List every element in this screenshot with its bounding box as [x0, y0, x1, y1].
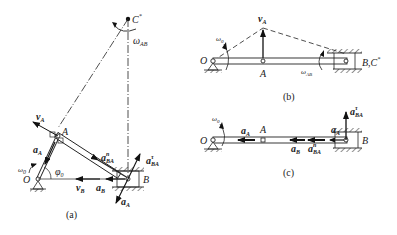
dashed-O-vA	[213, 28, 263, 61]
label-vB: vB	[76, 182, 84, 194]
panel-c: O ω0 aA A aB aBAn aA aBAτ B (c)	[200, 105, 368, 179]
label-omega0: ω0	[18, 166, 26, 175]
label-omega-AB: ωAB	[133, 35, 148, 47]
label-aB: aB	[96, 182, 105, 194]
mechanism-diagram: C* ωAB A vA aA O	[0, 0, 397, 235]
ground-support-O	[33, 181, 43, 189]
label-aBA-t: aBAτ	[146, 154, 159, 167]
label-vA: vA	[36, 111, 44, 123]
label-O-c: O	[200, 135, 207, 146]
rod-OB-b	[213, 58, 347, 64]
caption-c: (c)	[283, 167, 294, 179]
panel-a: C* ωAB A vA aA O	[18, 13, 159, 221]
label-aA-c: aA	[241, 125, 250, 137]
panel-b: vA O A ω0 ωAB B,C* (b)	[200, 13, 380, 103]
joint-B-b	[344, 59, 348, 63]
joint-A-b	[261, 59, 265, 63]
label-O-b: O	[200, 55, 207, 66]
label-C: C*	[132, 13, 142, 25]
aA-vector	[45, 142, 55, 164]
rod-OB-c	[213, 137, 347, 143]
caption-a: (a)	[66, 209, 77, 221]
label-omega0-b: ω0	[216, 35, 224, 44]
label-aBA-t-c: aBAτ	[350, 105, 363, 118]
omega0-arc	[29, 164, 36, 173]
label-A-b: A	[259, 68, 267, 79]
caption-b: (b)	[283, 91, 295, 103]
label-omega-AB-b: ωAB	[301, 68, 312, 77]
label-O: O	[23, 174, 30, 185]
ground-hatch-O	[30, 189, 46, 192]
label-aBA-n: aBAn	[101, 151, 114, 164]
label-aB-c: aB	[291, 143, 300, 155]
line-CA	[58, 19, 128, 128]
label-aA: aA	[33, 144, 42, 156]
joint-A-c	[261, 138, 265, 142]
phi0-arc	[44, 167, 51, 179]
label-aBA-n-c: aBAn	[308, 142, 321, 155]
ground-hatch-O-c	[204, 149, 222, 152]
aBA-t-vector	[128, 154, 140, 179]
vA-vector	[33, 122, 58, 136]
label-aA-at-B: aA	[121, 196, 130, 208]
ground-hatch-O-b	[204, 70, 222, 73]
label-A: A	[61, 126, 69, 137]
omega-AB-arc	[114, 25, 136, 31]
label-A-c: A	[259, 124, 267, 135]
label-BC-b: B,C*	[362, 56, 380, 68]
label-phi0: φ0	[55, 166, 64, 178]
label-omega0-c: ω0	[212, 115, 220, 124]
label-vA-b: vA	[258, 13, 266, 25]
label-B: B	[143, 174, 149, 185]
rod-AB	[55, 132, 121, 178]
label-B-c: B	[362, 135, 368, 146]
